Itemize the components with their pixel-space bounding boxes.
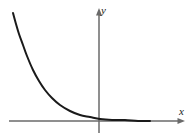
axes-group xyxy=(9,8,185,133)
x-axis-arrowhead xyxy=(178,118,186,124)
x-axis-label: x xyxy=(179,106,184,117)
y-axis-label: y xyxy=(101,5,106,16)
data-series-group xyxy=(13,13,150,121)
exponential-decay-figure: y x xyxy=(0,0,195,138)
plot-canvas xyxy=(0,0,195,138)
exponential-decay-curve xyxy=(13,13,150,121)
